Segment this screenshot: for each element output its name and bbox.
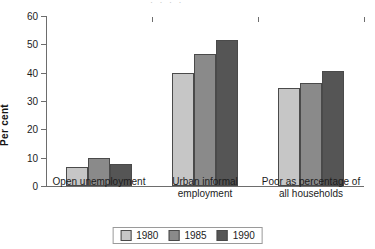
y-tick-label: 20	[27, 124, 38, 135]
legend-item: 1980	[120, 230, 158, 241]
bar-group	[46, 16, 364, 186]
legend-label: 1980	[136, 230, 158, 241]
y-tick-label: 30	[27, 96, 38, 107]
y-tick-label: 0	[32, 181, 38, 192]
x-category-label-line: Open unemployment	[46, 176, 152, 188]
x-category-label: Open unemployment	[46, 176, 152, 188]
x-category-label-line: all households	[258, 188, 364, 200]
x-category-label-line: Poor as percentage of	[258, 176, 364, 188]
y-axis-label: Per cent	[0, 104, 10, 146]
x-category-label: Urban informalemployment	[152, 176, 258, 200]
x-category-label: Poor as percentage ofall households	[258, 176, 364, 200]
chart-legend: 198019851990	[112, 227, 263, 244]
y-tick-label: 60	[27, 11, 38, 22]
legend-item: 1990	[217, 230, 255, 241]
x-category-label-line: Urban informal	[152, 176, 258, 188]
x-tick	[364, 17, 365, 22]
bar	[300, 83, 322, 186]
x-category-label-line: employment	[152, 188, 258, 200]
legend-label: 1990	[233, 230, 255, 241]
legend-item: 1985	[168, 230, 206, 241]
y-tick-label: 50	[27, 39, 38, 50]
bar	[322, 71, 344, 186]
scan-artifact-text: · · · ·	[150, 0, 330, 4]
legend-label: 1985	[184, 230, 206, 241]
plot-area: 0102030405060	[46, 16, 364, 186]
bar	[278, 88, 300, 186]
bar-chart-figure: · · · · Per cent 0102030405060 Open unem…	[0, 0, 375, 249]
legend-swatch	[217, 230, 228, 241]
y-tick-label: 40	[27, 67, 38, 78]
legend-swatch	[168, 230, 179, 241]
y-tick-label: 10	[27, 152, 38, 163]
legend-swatch	[120, 230, 131, 241]
